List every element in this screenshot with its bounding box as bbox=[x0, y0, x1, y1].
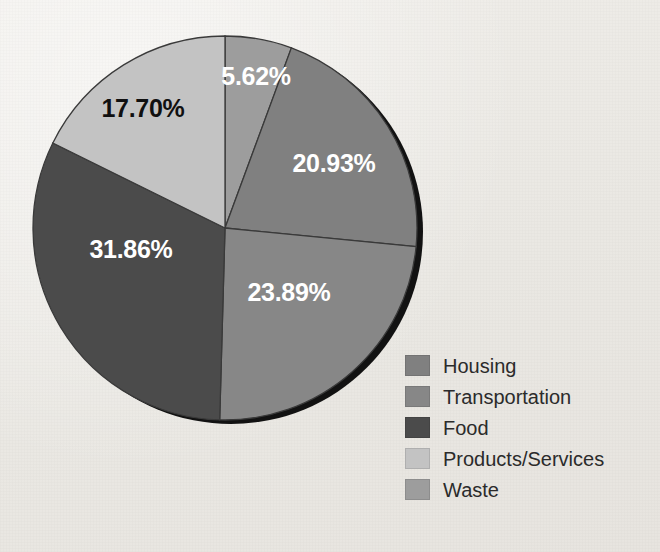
legend-item-products-services[interactable]: Products/Services bbox=[405, 443, 655, 474]
legend-swatch-icon bbox=[405, 448, 430, 469]
legend-item-food[interactable]: Food bbox=[405, 412, 655, 443]
pie-chart: 5.62%20.93%23.89%31.86%17.70% HousingTra… bbox=[0, 0, 660, 552]
pie-slices bbox=[33, 36, 417, 420]
legend-item-label: Products/Services bbox=[443, 449, 604, 469]
legend-swatch-icon bbox=[405, 479, 430, 500]
legend-item-label: Food bbox=[443, 418, 489, 438]
slice-label-products-services: 17.70% bbox=[102, 94, 185, 122]
legend-item-waste[interactable]: Waste bbox=[405, 474, 655, 505]
slice-label-food: 31.86% bbox=[90, 235, 173, 263]
slice-label-waste: 5.62% bbox=[221, 62, 290, 90]
slice-label-housing: 20.93% bbox=[293, 149, 376, 177]
legend-item-transportation[interactable]: Transportation bbox=[405, 381, 655, 412]
legend-item-label: Waste bbox=[443, 480, 499, 500]
legend-swatch-icon bbox=[405, 355, 430, 376]
pie-slice-transportation[interactable] bbox=[220, 228, 416, 420]
legend-swatch-icon bbox=[405, 386, 430, 407]
legend-item-label: Housing bbox=[443, 356, 516, 376]
legend-item-label: Transportation bbox=[443, 387, 571, 407]
chart-legend: HousingTransportationFoodProducts/Servic… bbox=[405, 350, 655, 505]
slice-label-transportation: 23.89% bbox=[248, 278, 331, 306]
legend-item-housing[interactable]: Housing bbox=[405, 350, 655, 381]
legend-swatch-icon bbox=[405, 417, 430, 438]
